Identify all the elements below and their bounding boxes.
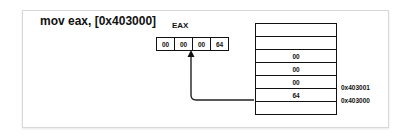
load-arrow-icon bbox=[0, 0, 408, 137]
